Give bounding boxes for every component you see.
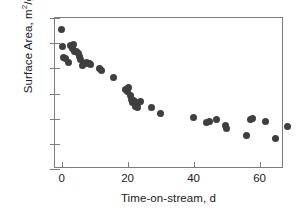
y-tick-mark	[55, 169, 60, 170]
x-tick-label: 0	[47, 173, 77, 185]
data-point	[148, 104, 155, 111]
data-point	[190, 114, 197, 121]
scatter-chart-figure: Surface Area, m2/g 16182022242628 020406…	[0, 0, 299, 220]
data-point	[87, 61, 94, 68]
y-axis-title-post: /g	[22, 0, 34, 5]
data-point	[65, 59, 72, 66]
data-point	[98, 67, 105, 74]
x-tick-label: 60	[245, 173, 275, 185]
data-point	[223, 125, 230, 132]
y-tick-mark-outer	[50, 169, 55, 170]
data-point	[70, 41, 77, 48]
data-point	[243, 132, 250, 139]
x-tick-label: 40	[179, 173, 209, 185]
y-axis-title: Surface Area, m2/g	[22, 0, 34, 124]
y-axis-title-exponent: 2	[20, 5, 29, 10]
data-point	[249, 115, 256, 122]
data-point	[110, 74, 117, 81]
data-points-layer	[55, 18, 282, 167]
x-tick-label: 20	[113, 173, 143, 185]
data-point	[206, 118, 213, 125]
data-point	[58, 26, 65, 33]
data-point	[262, 118, 269, 125]
y-axis-title-pre: Surface Area, m	[22, 9, 34, 93]
data-point	[59, 43, 66, 50]
x-axis-title: Time-on-stream, d	[54, 192, 283, 204]
data-point	[157, 110, 164, 117]
data-point	[125, 84, 132, 91]
data-point	[284, 123, 291, 130]
data-point	[137, 98, 144, 105]
data-point	[213, 116, 220, 123]
plot-area: 16182022242628 0204060	[54, 17, 283, 168]
data-point	[272, 135, 279, 142]
